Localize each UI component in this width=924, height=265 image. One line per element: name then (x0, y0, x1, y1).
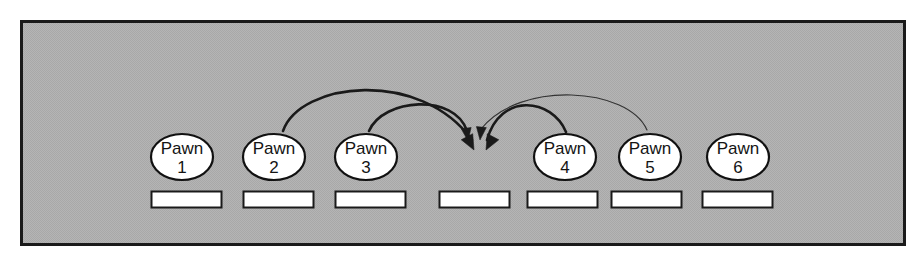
pawn-node-6[interactable]: Pawn 6 (707, 134, 769, 180)
pawn-node-4[interactable]: Pawn 4 (534, 134, 596, 180)
pawn-6-label: Pawn (717, 139, 760, 158)
empty-slot-6[interactable] (612, 192, 682, 208)
pawn-row-diagram: Pawn 1 Pawn 2 Pawn 3 Pawn 4 Pawn (0, 0, 924, 265)
pawn-node-3[interactable]: Pawn 3 (335, 134, 397, 180)
pawn-3-number: 3 (361, 158, 370, 177)
pawn-5-number: 5 (645, 158, 654, 177)
empty-slot-7[interactable] (703, 192, 773, 208)
panel-frame (22, 22, 905, 245)
empty-slot-1[interactable] (152, 192, 222, 208)
diagram-stage: Pawn 1 Pawn 2 Pawn 3 Pawn 4 Pawn (0, 0, 924, 265)
empty-slot-3[interactable] (336, 192, 406, 208)
pawn-4-number: 4 (560, 158, 569, 177)
pawn-6-number: 6 (733, 158, 742, 177)
pawn-2-label: Pawn (253, 139, 296, 158)
pawn-2-number: 2 (269, 158, 278, 177)
slot-row (152, 192, 773, 208)
pawn-5-label: Pawn (629, 139, 672, 158)
empty-slot-4-target[interactable] (440, 192, 510, 208)
diagram-panel (22, 22, 905, 245)
empty-slot-2[interactable] (244, 192, 314, 208)
pawn-node-5[interactable]: Pawn 5 (619, 134, 681, 180)
pawn-1-number: 1 (177, 158, 186, 177)
pawn-3-label: Pawn (345, 139, 388, 158)
pawn-4-label: Pawn (544, 139, 587, 158)
pawn-1-label: Pawn (161, 139, 204, 158)
pawn-node-1[interactable]: Pawn 1 (151, 134, 213, 180)
pawn-node-2[interactable]: Pawn 2 (243, 134, 305, 180)
empty-slot-5[interactable] (528, 192, 598, 208)
